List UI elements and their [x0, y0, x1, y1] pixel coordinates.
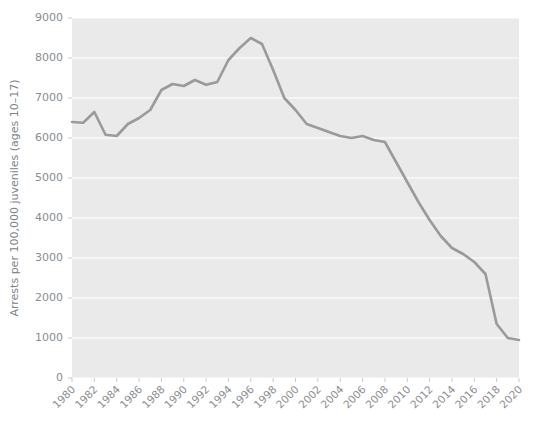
- y-tick-label-7000: 7000: [35, 91, 63, 104]
- plot-area-background: [72, 18, 519, 378]
- y-tick-label-1000: 1000: [35, 331, 63, 344]
- y-axis-title: Arrests per 100,000 juveniles (ages 10–1…: [8, 79, 21, 316]
- y-tick-label-2000: 2000: [35, 291, 63, 304]
- y-tick-label-8000: 8000: [35, 51, 63, 64]
- y-tick-label-9000: 9000: [35, 11, 63, 24]
- y-tick-label-3000: 3000: [35, 251, 63, 264]
- y-tick-label-4000: 4000: [35, 211, 63, 224]
- chart-canvas: 0100020003000400050006000700080009000 19…: [0, 0, 535, 426]
- y-tick-label-0: 0: [56, 371, 63, 384]
- y-tick-label-5000: 5000: [35, 171, 63, 184]
- chart-figure: 0100020003000400050006000700080009000 19…: [0, 0, 535, 426]
- x-axis-tickmarks: [72, 378, 519, 382]
- y-tick-label-6000: 6000: [35, 131, 63, 144]
